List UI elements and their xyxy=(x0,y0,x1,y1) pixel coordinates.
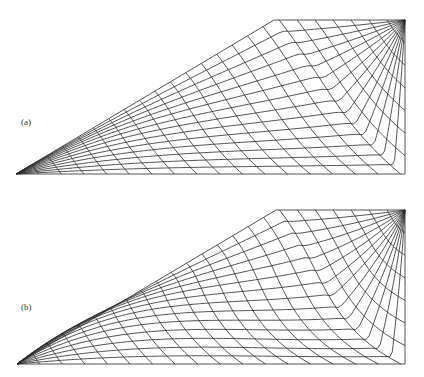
mesh-cross-line xyxy=(264,217,379,364)
mesh-panel-b: (b) xyxy=(0,188,424,377)
mesh-flow-line xyxy=(16,20,405,174)
mesh-cross-line xyxy=(263,27,378,174)
mesh-flow-line xyxy=(16,20,405,174)
mesh-cross-line xyxy=(201,63,287,174)
mesh-flow-line xyxy=(16,20,405,174)
mesh-flow-line xyxy=(16,20,405,174)
mesh-outer-boundary xyxy=(16,20,405,174)
mesh-cross-line xyxy=(248,36,356,174)
mesh-flow-line xyxy=(17,210,405,364)
panel-label-a: (a) xyxy=(21,117,31,127)
mesh-upper-boundary xyxy=(16,20,405,174)
mesh-cross-line xyxy=(217,245,310,364)
mesh-drawing-a xyxy=(0,0,424,188)
mesh-flow-line xyxy=(16,20,405,174)
mesh-flow-line xyxy=(16,20,405,174)
mesh-panel-a: (a) xyxy=(0,0,424,188)
mesh-flow-line xyxy=(16,20,405,174)
mesh-cross-line xyxy=(187,263,266,364)
mesh-cross-line xyxy=(217,54,310,174)
mesh-flow-line xyxy=(16,20,405,174)
mesh-flow-line xyxy=(16,20,405,174)
mesh-cross-line xyxy=(140,291,197,364)
mesh-drawing-b xyxy=(0,188,424,377)
mesh-flow-line xyxy=(16,20,405,174)
panel-label-b: (b) xyxy=(21,302,32,312)
mesh-flow-line xyxy=(16,20,405,174)
mesh-flow-line xyxy=(16,20,405,174)
mesh-flow-line xyxy=(16,20,405,174)
mesh-cross-line xyxy=(232,45,333,174)
mesh-cross-line xyxy=(156,282,221,364)
mesh-cross-line xyxy=(140,100,198,174)
